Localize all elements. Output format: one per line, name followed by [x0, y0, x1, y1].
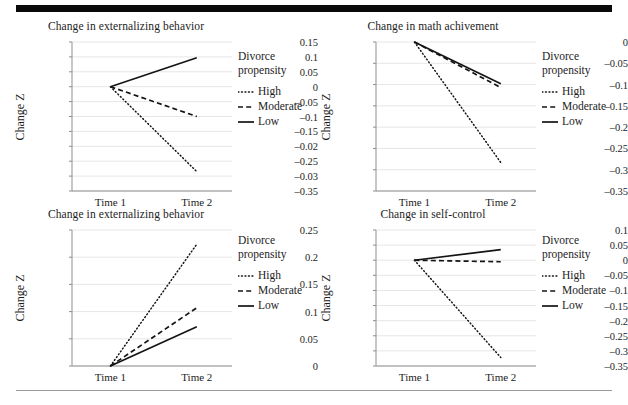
x-axis-tick-label: Time 2 — [181, 371, 212, 383]
y-axis-label: Change Z — [13, 93, 28, 140]
legend-item-high[interactable]: High — [542, 84, 606, 99]
series-line-high — [110, 244, 196, 366]
legend-item-moderate[interactable]: Moderate — [542, 99, 606, 114]
panel-top-right: Change in math achivement0–0.05–0.1–0.15… — [316, 16, 628, 204]
y-axis-tick-label: –0.3 — [573, 345, 628, 356]
legend-items: HighModerateLow — [542, 84, 606, 129]
legend-item-low[interactable]: Low — [238, 298, 302, 313]
top-horizontal-rule — [16, 5, 612, 12]
y-axis-tick-label: –0.25 — [257, 156, 318, 167]
y-axis-label: Change Z — [13, 275, 28, 322]
figure-panel-grid: Change in externalizing behavior0.150.10… — [0, 14, 628, 386]
y-axis-tick-label: 0.15 — [257, 37, 318, 48]
legend-item-moderate[interactable]: Moderate — [238, 99, 302, 114]
legend-title-line2: propensity — [238, 248, 302, 262]
y-axis-tick-label: –0.02 — [257, 141, 318, 152]
y-axis-tick-label: –0.25 — [573, 143, 628, 154]
legend-key-dashed-line-icon — [238, 102, 254, 112]
legend-item-low[interactable]: Low — [542, 298, 606, 313]
y-axis-tick-label: –0.03 — [257, 171, 318, 182]
x-axis-tick-label: Time 1 — [399, 371, 430, 383]
series-line-high — [414, 42, 500, 162]
legend-label: High — [258, 269, 281, 283]
legend-label: Low — [258, 115, 279, 129]
legend-title-line2: propensity — [542, 64, 606, 78]
legend: DivorcepropensityHighModerateLow — [542, 234, 606, 313]
legend: DivorcepropensityHighModerateLow — [238, 234, 302, 313]
legend-title-line1: Divorce — [542, 234, 606, 248]
legend-items: HighModerateLow — [238, 84, 302, 129]
legend-title-line2: propensity — [542, 248, 606, 262]
legend-label: High — [562, 85, 585, 99]
legend-key-solid-line-icon — [542, 301, 558, 311]
legend-title-line1: Divorce — [542, 50, 606, 64]
y-axis-label: Change Z — [319, 93, 334, 140]
y-axis-label: Change Z — [319, 275, 334, 322]
legend-label: Moderate — [562, 284, 606, 298]
legend-item-moderate[interactable]: Moderate — [238, 283, 302, 298]
legend-items: HighModerateLow — [542, 268, 606, 313]
legend-label: High — [258, 85, 281, 99]
legend-item-moderate[interactable]: Moderate — [542, 283, 606, 298]
y-axis-tick-label: 0.05 — [257, 333, 318, 344]
legend-items: HighModerateLow — [238, 268, 302, 313]
legend-label: Moderate — [258, 100, 302, 114]
legend-key-dashed-line-icon — [542, 286, 558, 296]
bottom-horizontal-rule — [16, 390, 612, 391]
y-axis-tick-label: 0 — [257, 361, 318, 372]
panel-top-left: Change in externalizing behavior0.150.10… — [6, 16, 318, 204]
legend-title-line1: Divorce — [238, 234, 302, 248]
series-line-high — [414, 260, 500, 357]
legend-key-solid-line-icon — [238, 301, 254, 311]
legend-item-high[interactable]: High — [542, 268, 606, 283]
legend-key-solid-line-icon — [542, 117, 558, 127]
legend-item-low[interactable]: Low — [542, 114, 606, 129]
legend-key-dotted-line-icon — [542, 271, 558, 281]
legend-label: High — [562, 269, 585, 283]
legend-label: Low — [562, 115, 583, 129]
legend-label: Moderate — [562, 100, 606, 114]
legend-label: Moderate — [258, 284, 302, 298]
legend-key-dashed-line-icon — [238, 286, 254, 296]
legend-title-line1: Divorce — [238, 50, 302, 64]
legend-label: Low — [562, 299, 583, 313]
legend-title-line2: propensity — [238, 64, 302, 78]
series-line-low — [110, 327, 196, 366]
legend-item-low[interactable]: Low — [238, 114, 302, 129]
series-line-moderate — [110, 308, 196, 366]
legend-key-dotted-line-icon — [542, 87, 558, 97]
y-axis-tick-label: –0.2 — [573, 315, 628, 326]
x-axis-tick-label: Time 2 — [485, 371, 516, 383]
legend: DivorcepropensityHighModerateLow — [238, 50, 302, 129]
legend-key-solid-line-icon — [238, 117, 254, 127]
legend-key-dashed-line-icon — [542, 102, 558, 112]
series-line-high — [110, 87, 196, 172]
y-axis-tick-label: –0.35 — [573, 186, 628, 197]
series-line-low — [414, 250, 500, 261]
legend-item-high[interactable]: High — [238, 268, 302, 283]
y-axis-tick-label: –0.35 — [257, 186, 318, 197]
y-axis-tick-label: –0.35 — [573, 361, 628, 372]
y-axis-tick-label: –0.3 — [573, 164, 628, 175]
y-axis-tick-label: 0 — [573, 37, 628, 48]
x-axis-tick-label: Time 1 — [95, 371, 126, 383]
panel-bottom-left: Change in externalizing behavior0.250.20… — [6, 206, 318, 386]
legend: DivorcepropensityHighModerateLow — [542, 50, 606, 129]
legend-item-high[interactable]: High — [238, 84, 302, 99]
panel-bottom-right: Change in self-control0.10.050–0.05–0.1–… — [316, 206, 628, 386]
legend-key-dotted-line-icon — [238, 87, 254, 97]
legend-label: Low — [258, 299, 279, 313]
legend-key-dotted-line-icon — [238, 271, 254, 281]
y-axis-tick-label: –0.25 — [573, 330, 628, 341]
